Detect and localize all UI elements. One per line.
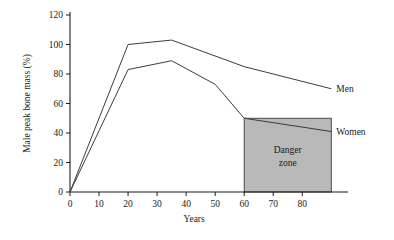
x-tick-label: 0 [68,199,73,209]
y-tick-label: 0 [58,187,63,197]
y-tick-label: 40 [54,128,64,138]
y-tick-label: 20 [54,158,64,168]
y-axis-title: Male peak bone mass (%) [22,54,33,153]
x-tick-label: 70 [268,199,278,209]
x-axis-title: Years [184,214,206,224]
bone-mass-line-chart: Danger zone 020406080100120 010203040506… [0,0,394,240]
chart-background [0,0,394,240]
x-tick-label: 20 [123,199,133,209]
x-tick-label: 10 [94,199,104,209]
y-tick-label: 60 [54,99,64,109]
x-tick-label: 40 [181,199,191,209]
series-label-men: Men [336,84,354,94]
danger-zone-label-line2: zone [279,158,297,168]
danger-zone-label-line1: Danger [274,145,303,155]
x-tick-label: 30 [152,199,162,209]
series-label-women: Women [336,127,366,137]
y-tick-label: 100 [49,40,64,50]
chart-figure: Danger zone 020406080100120 010203040506… [0,0,394,240]
x-tick-label: 60 [239,199,249,209]
x-tick-label: 80 [298,199,308,209]
y-tick-label: 80 [54,69,64,79]
y-tick-label: 120 [49,10,64,20]
x-tick-label: 50 [210,199,220,209]
